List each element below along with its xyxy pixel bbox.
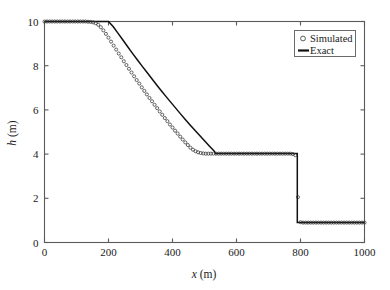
y-tick-label: 4 <box>33 148 39 160</box>
svg-text:x (m): x (m) <box>191 268 217 281</box>
y-tick-label: 8 <box>33 60 39 72</box>
x-tick-label: 600 <box>228 246 245 258</box>
legend-label-simulated: Simulated <box>310 33 353 44</box>
chart-legend: Simulated Exact <box>295 31 356 57</box>
x-tick-label: 200 <box>100 246 117 258</box>
x-axis-title: x (m) <box>191 268 217 281</box>
y-tick-label: 2 <box>33 192 39 204</box>
y-tick-label: 10 <box>28 16 40 28</box>
x-tick-label: 0 <box>42 246 48 258</box>
y-tick-label: 6 <box>33 104 39 116</box>
svg-text:h (m): h (m) <box>6 120 19 145</box>
chart-svg: 02004006008001000 0246810 x (m) h (m) Si… <box>0 0 390 290</box>
dam-break-chart-figure: 02004006008001000 0246810 x (m) h (m) Si… <box>0 0 390 290</box>
x-tick-label: 800 <box>292 246 309 258</box>
x-tick-label: 400 <box>164 246 181 258</box>
legend-label-exact: Exact <box>310 45 334 56</box>
y-axis-title: h (m) <box>6 120 19 145</box>
y-tick-label: 0 <box>33 237 39 249</box>
x-tick-label: 1000 <box>354 246 377 258</box>
